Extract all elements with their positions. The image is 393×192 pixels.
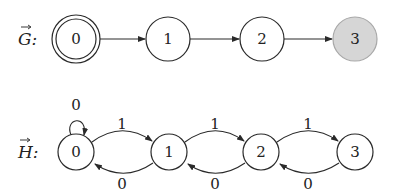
node-h-0: 0 <box>58 134 94 170</box>
node-label: 3 <box>350 143 360 161</box>
graph-h-label: H: <box>17 138 39 162</box>
node-h-3: 3 <box>337 134 373 170</box>
edge-h-2-1 <box>188 163 245 173</box>
edge-label: 1 <box>210 115 220 133</box>
edge-label: 0 <box>71 96 81 114</box>
node-label: 1 <box>163 30 173 48</box>
node-label: 0 <box>71 30 81 48</box>
edge-label: 1 <box>117 115 127 133</box>
node-label: 3 <box>350 30 360 48</box>
graph-g-label: G: <box>18 25 37 49</box>
node-g-1: 1 <box>146 17 190 61</box>
edge-h-3-2 <box>280 163 339 173</box>
edge-label: 0 <box>117 175 127 192</box>
node-label: 2 <box>257 30 267 48</box>
node-label: 2 <box>256 143 266 161</box>
node-g-0: 0 <box>52 15 100 63</box>
graph-g-name: G: <box>18 29 37 49</box>
node-label: 0 <box>71 143 81 161</box>
edge-label: 0 <box>210 175 220 192</box>
edge-h-1-0 <box>95 163 153 173</box>
graph-g: G: 0 1 2 3 <box>18 15 377 63</box>
node-g-3: 3 <box>333 17 377 61</box>
automata-diagram: G: 0 1 2 3 H: <box>0 0 393 192</box>
edge-label: 1 <box>303 115 313 133</box>
edge-label: 0 <box>303 175 313 192</box>
node-h-2: 2 <box>243 134 279 170</box>
graph-h: H: 0 1 0 1 0 1 0 0 1 <box>17 96 373 192</box>
node-label: 1 <box>164 143 174 161</box>
node-g-2: 2 <box>240 17 284 61</box>
graph-h-name: H: <box>17 142 39 162</box>
edge-h-0-0-self-loop <box>70 121 85 135</box>
node-h-1: 1 <box>151 134 187 170</box>
